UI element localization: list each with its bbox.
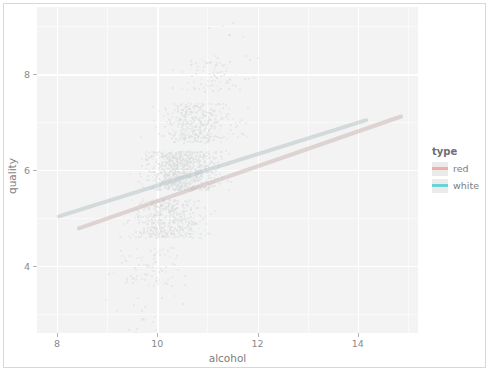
y-axis-label: quality [6,146,18,206]
y-tick-mark [33,170,37,171]
legend-key-swatch [432,162,448,176]
legend-item[interactable]: white [432,178,479,193]
y-tick-label: 8 [24,69,30,80]
regression-line-white [56,117,368,218]
y-tick-mark [33,74,37,75]
legend-key-swatch [432,179,448,193]
legend-key-line [432,167,448,170]
legend-entries: redwhite [432,161,479,193]
plot-panel [37,7,418,333]
regression-lines [37,7,418,333]
x-tick-label: 12 [252,338,264,349]
chart-figure: alcohol quality type redwhite 8101214468 [0,0,489,371]
x-tick-mark [57,333,58,337]
x-tick-label: 8 [54,338,60,349]
regression-line-red [76,114,403,231]
legend: type redwhite [432,146,479,195]
x-tick-mark [258,333,259,337]
x-tick-mark [157,333,158,337]
y-tick-label: 4 [24,260,30,271]
y-tick-label: 6 [24,165,30,176]
legend-label: red [453,163,469,174]
x-axis-label: alcohol [37,352,418,364]
y-tick-mark [33,266,37,267]
legend-key-line [432,184,448,187]
legend-title: type [432,146,479,157]
x-tick-label: 10 [151,338,163,349]
x-tick-mark [358,333,359,337]
legend-label: white [453,180,479,191]
x-tick-label: 14 [352,338,364,349]
legend-item[interactable]: red [432,161,479,176]
